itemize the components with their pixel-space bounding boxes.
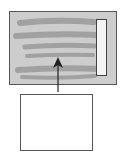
scribble-stroke bbox=[18, 68, 100, 70]
scribble-stroke bbox=[27, 55, 93, 56]
blank-box bbox=[21, 95, 93, 151]
scribble-stroke bbox=[25, 45, 95, 47]
scribble-stroke bbox=[20, 21, 94, 23]
scrollbar bbox=[97, 20, 107, 76]
scribble-stroke bbox=[16, 34, 97, 36]
diagram bbox=[0, 0, 123, 162]
